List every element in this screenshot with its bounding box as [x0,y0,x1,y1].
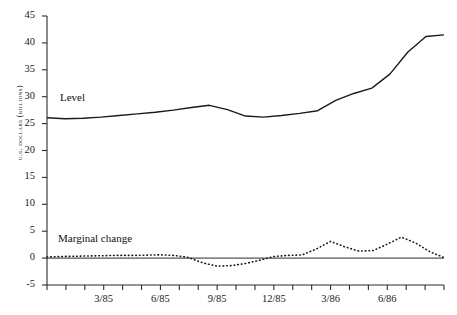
series-line-level [47,35,444,119]
axes [42,16,444,290]
series-line-marginal-change [47,237,444,266]
data-series [47,35,444,266]
plot-area [0,0,457,315]
chart-container: U.S. DOLLARS (BILLIONS) -505101520253035… [0,0,457,315]
